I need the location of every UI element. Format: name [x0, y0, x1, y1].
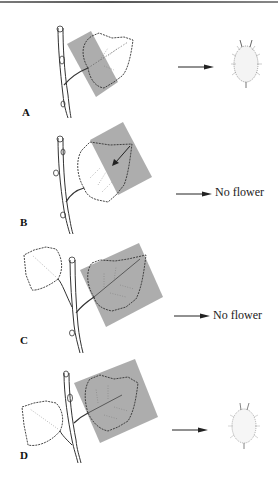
flower-icon	[228, 403, 260, 449]
panel-c: No flower C	[0, 235, 278, 355]
panel-b-illustration	[0, 120, 278, 235]
shade-rect	[67, 31, 118, 97]
shade-rect	[90, 122, 152, 195]
panel-label: A	[22, 106, 30, 118]
panel-label: B	[20, 216, 27, 228]
shade-rect	[80, 243, 163, 327]
panel-d-illustration	[0, 355, 278, 488]
panel-a-illustration	[0, 0, 278, 120]
panel-c-illustration	[0, 235, 278, 355]
panel-b: No flower B	[0, 120, 278, 235]
panel-label: D	[20, 449, 28, 461]
result-text: No flower	[213, 308, 262, 323]
panel-d: D	[0, 355, 278, 488]
panel-a: A	[0, 0, 278, 120]
flower-icon	[231, 40, 262, 88]
panel-label: C	[20, 334, 28, 346]
result-text: No flower	[215, 185, 264, 200]
shade-rect	[74, 359, 158, 443]
